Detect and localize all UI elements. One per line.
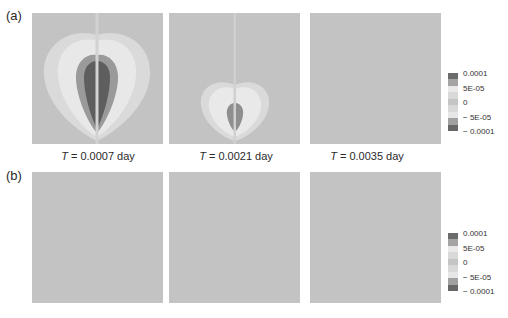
colorbar-tick-label: − 0.0001 [463,287,494,296]
caption-var: T [330,150,337,162]
colorbar-tick-label: 5E-05 [463,84,484,93]
heatmap-panel-b2 [169,172,300,303]
heatmap-a1-plot [32,13,163,144]
caption-text: = 0.0035 day [337,150,404,162]
heatmap-panel-a2 [169,13,300,144]
colorbar-tick-label: 5E-05 [463,244,484,253]
colorbar-a: 0.00015E-050− 5E-05− 0.0001 [448,73,508,133]
caption-var: T [61,150,68,162]
caption-a1: T = 0.0007 day [28,150,168,162]
caption-var: T [199,150,206,162]
colorbar-tick-label: 0.0001 [463,69,487,78]
fault-line [234,13,237,144]
heatmap-panel-b3 [310,172,441,303]
colorbar-swatch [448,285,458,292]
colorbar-tick-label: 0 [463,258,467,267]
colorbar-tick-label: − 5E-05 [463,113,491,122]
fault-line [96,13,99,144]
heatmap-panel-a3 [310,13,441,144]
heatmap-a2-plot [169,13,300,144]
row-label-b: (b) [6,168,22,183]
caption-a3: T = 0.0035 day [297,150,437,162]
heatmap-panel-a1 [32,13,163,144]
row-label-a: (a) [6,8,22,23]
colorbar-tick-label: − 0.0001 [463,127,494,136]
caption-a2: T = 0.0021 day [166,150,306,162]
caption-text: = 0.0007 day [68,150,135,162]
heatmap-panel-b1 [32,172,163,303]
colorbar-b: 0.00015E-050− 5E-05− 0.0001 [448,233,508,293]
colorbar-tick-label: 0 [463,98,467,107]
caption-text: = 0.0021 day [206,150,273,162]
colorbar-tick-label: 0.0001 [463,229,487,238]
colorbar-swatch [448,125,458,132]
colorbar-tick-label: − 5E-05 [463,273,491,282]
